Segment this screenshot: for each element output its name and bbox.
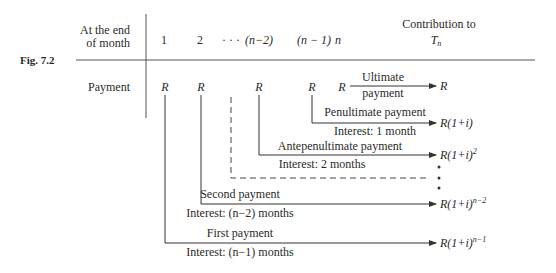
payment-r-n: R [337,80,346,94]
month-n-minus-1: (n − 1) [297,33,331,47]
penultimate-label-above: Penultimate payment [324,105,426,119]
first-label-above: First payment [207,226,274,240]
ultimate-label-above: Ultimate [362,70,404,84]
ellipsis-dot [438,187,441,190]
contribution-heading: Contribution to [402,17,476,31]
ellipsis-dot [438,166,441,169]
second-label-above: Second payment [200,187,280,201]
row-label-line2: of month [86,36,130,50]
first-label-below: Interest: (n−1) months [186,245,294,259]
payment-r-2: R [196,80,205,94]
payment-r-1: R [160,80,169,94]
antepenultimate-result: R(1+i)2 [439,147,477,162]
antepenultimate-label-above: Antepenultimate payment [278,139,403,153]
row-label-line1: At the end [80,23,130,37]
ultimate-label-below: payment [362,86,404,100]
penultimate-label-below: Interest: 1 month [334,124,416,138]
figure-label: Fig. 7.2 [20,54,55,66]
penultimate-result: R(1+i) [439,116,473,130]
month-1: 1 [161,33,167,47]
month-2: 2 [197,33,203,47]
month-n: n [335,33,341,47]
second-result: R(1+i)n−2 [439,196,486,211]
month-ellipsis: · · · [222,33,240,47]
month-n-minus-2: (n−2) [245,33,273,47]
antepenultimate-label-below: Interest: 2 months [279,157,366,171]
payment-row-label: Payment [88,80,131,94]
first-result: R(1+i)n−1 [439,235,486,250]
contribution-symbol: Tn [431,33,442,48]
annuity-diagram: Fig. 7.2 At the end of month 1 2 · · · (… [0,0,556,273]
payment-r-n-minus-2: R [254,80,263,94]
ellipsis-dot [438,177,441,180]
ultimate-result: R [439,79,448,93]
second-label-below: Interest: (n−2) months [186,206,294,220]
payment-r-n-minus-1: R [307,80,316,94]
